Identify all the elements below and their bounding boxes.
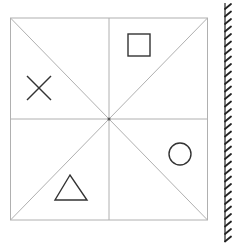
mirror-hatch [225, 94, 231, 99]
mirror-hatch [225, 79, 231, 84]
mirror-hatch [225, 214, 231, 219]
mirror [225, 3, 231, 242]
mirror-hatch [225, 184, 231, 189]
circle-symbol [169, 143, 191, 165]
mirror-hatch [225, 27, 231, 32]
mirror-hatch [225, 117, 231, 122]
mirror-hatch [225, 49, 231, 54]
mirror-hatch [225, 199, 231, 204]
mirror-hatch [225, 229, 231, 234]
mirror-hatch [225, 207, 231, 212]
mirror-hatch [225, 109, 231, 114]
mirror-hatch [225, 87, 231, 92]
mirror-hatch [225, 132, 231, 137]
mirror-hatch [225, 169, 231, 174]
mirror-hatch [225, 4, 231, 9]
diagram-canvas [0, 0, 237, 243]
mirror-hatch [225, 12, 231, 17]
mirror-hatch [225, 102, 231, 107]
x-symbol [27, 76, 51, 100]
mirror-hatch [225, 192, 231, 197]
triangle-symbol [55, 175, 87, 200]
mirror-hatch [225, 34, 231, 39]
square-symbol [128, 34, 150, 56]
mirror-hatch [225, 154, 231, 159]
mirror-hatch [225, 237, 231, 242]
mirror-hatch [225, 139, 231, 144]
mirror-hatch [225, 147, 231, 152]
mirror-hatch [225, 162, 231, 167]
mirror-hatch [225, 19, 231, 24]
divided-square [11, 18, 208, 220]
mirror-hatch [225, 64, 231, 69]
mirror-hatch [225, 72, 231, 77]
mirror-hatch [225, 57, 231, 62]
mirror-hatch [225, 124, 231, 129]
center-dot [108, 118, 111, 121]
mirror-hatch [225, 177, 231, 182]
mirror-hatch [225, 222, 231, 227]
mirror-hatch [225, 42, 231, 47]
